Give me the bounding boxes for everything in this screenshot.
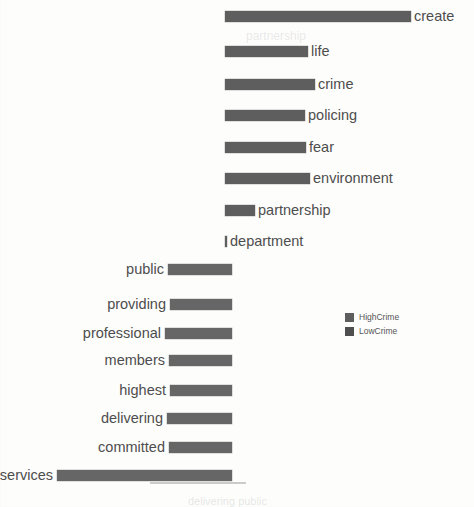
legend-label-lowcrime: LowCrime bbox=[359, 325, 397, 337]
bar-row: crime bbox=[0, 79, 474, 101]
bar-label-committed: committed bbox=[98, 439, 165, 455]
bar-label-delivering: delivering bbox=[101, 410, 163, 426]
legend-item-lowcrime[interactable]: LowCrime bbox=[345, 325, 399, 337]
bar-policing[interactable] bbox=[225, 110, 305, 121]
bar-label-highest: highest bbox=[119, 382, 166, 398]
diverging-bar-chart: partnership createlifecrimepolicingfeare… bbox=[0, 0, 474, 507]
bar-row: services bbox=[0, 470, 474, 492]
bar-label-department: department bbox=[230, 233, 303, 249]
bar-row: committed bbox=[0, 442, 474, 464]
bar-row: public bbox=[0, 264, 474, 286]
bar-highest[interactable] bbox=[170, 385, 232, 396]
bar-fear[interactable] bbox=[225, 142, 306, 153]
scan-smudge-bottom bbox=[150, 482, 246, 484]
bar-row: fear bbox=[0, 142, 474, 164]
bar-row: providing bbox=[0, 299, 474, 321]
bar-label-providing: providing bbox=[107, 296, 166, 312]
bar-label-members: members bbox=[105, 352, 165, 368]
legend-swatch-highcrime bbox=[345, 313, 354, 322]
bar-label-policing: policing bbox=[308, 107, 357, 123]
legend-swatch-lowcrime bbox=[345, 327, 354, 336]
bar-life[interactable] bbox=[225, 46, 308, 57]
bar-providing[interactable] bbox=[170, 299, 232, 310]
bar-row: environment bbox=[0, 173, 474, 195]
bar-row: professional bbox=[0, 328, 474, 350]
bar-label-partnership: partnership bbox=[258, 202, 331, 218]
bar-label-fear: fear bbox=[309, 139, 334, 155]
legend-label-highcrime: HighCrime bbox=[359, 311, 399, 323]
chart-legend: HighCrime LowCrime bbox=[345, 311, 399, 339]
legend-item-highcrime[interactable]: HighCrime bbox=[345, 311, 399, 323]
bar-members[interactable] bbox=[169, 355, 232, 366]
bar-row: policing bbox=[0, 110, 474, 132]
bar-row: members bbox=[0, 355, 474, 377]
bar-crime[interactable] bbox=[225, 79, 315, 90]
bar-label-services: services bbox=[0, 467, 53, 483]
bar-row: partnership bbox=[0, 205, 474, 227]
bar-create[interactable] bbox=[225, 11, 411, 22]
bar-row: highest bbox=[0, 385, 474, 407]
bar-delivering[interactable] bbox=[167, 413, 232, 424]
bar-row: delivering bbox=[0, 413, 474, 435]
bar-label-create: create bbox=[414, 8, 454, 24]
bar-row: create bbox=[0, 11, 474, 33]
bar-partnership[interactable] bbox=[225, 205, 255, 216]
bar-label-public: public bbox=[126, 261, 164, 277]
bar-professional[interactable] bbox=[165, 328, 232, 339]
bar-services[interactable] bbox=[57, 470, 232, 481]
bar-label-life: life bbox=[311, 43, 330, 59]
bar-label-crime: crime bbox=[318, 76, 353, 92]
scan-ghost-text-bottom: delivering public bbox=[188, 495, 267, 507]
bar-label-environment: environment bbox=[313, 170, 393, 186]
bar-environment[interactable] bbox=[225, 173, 310, 184]
bar-row: life bbox=[0, 46, 474, 68]
bar-department[interactable] bbox=[225, 236, 227, 247]
bar-committed[interactable] bbox=[169, 442, 232, 453]
bar-row: department bbox=[0, 236, 474, 258]
bar-public[interactable] bbox=[168, 264, 232, 275]
bar-label-professional: professional bbox=[83, 325, 161, 341]
